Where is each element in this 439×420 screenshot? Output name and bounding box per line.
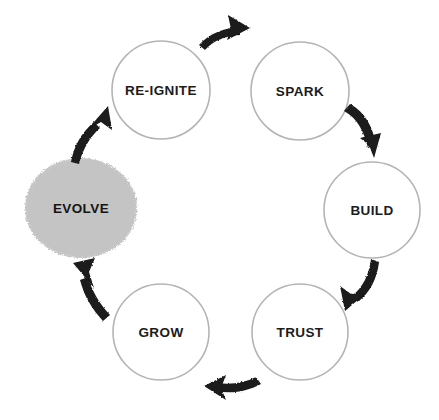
arrow-spark-to-build	[344, 104, 381, 158]
node-trust-shape[interactable]	[252, 284, 348, 380]
cycle-diagram-canvas	[0, 0, 439, 420]
arrow-grow-to-evolve	[73, 258, 110, 321]
arrow-trust-to-grow	[204, 375, 261, 400]
node-grow-shape[interactable]	[113, 284, 209, 380]
cycle-diagram: RE-IGNITE SPARK BUILD TRUST GROW EVOLVE	[0, 0, 439, 420]
arrow-evolve-to-reignite	[71, 106, 112, 164]
node-re-ignite-shape[interactable]	[112, 41, 210, 139]
node-spark-shape[interactable]	[251, 42, 349, 140]
arrow-build-to-trust	[340, 259, 379, 311]
arrow-reignite-to-spark	[199, 15, 250, 50]
node-build-shape[interactable]	[324, 162, 420, 258]
node-evolve-shape[interactable]	[25, 158, 137, 258]
